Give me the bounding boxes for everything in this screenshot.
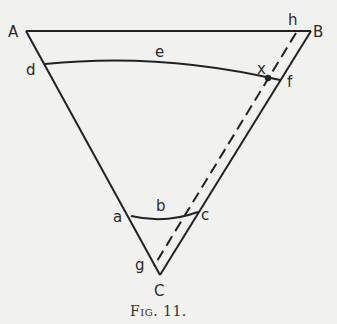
label-C: C	[154, 282, 164, 300]
label-c: c	[201, 206, 209, 224]
label-x: x	[257, 60, 266, 78]
label-g: g	[135, 256, 145, 274]
figure-caption: Fig. 11.	[130, 303, 187, 319]
label-f: f	[287, 73, 293, 91]
label-d: d	[26, 61, 36, 79]
dashed-line-hg	[154, 33, 296, 266]
label-A: A	[8, 23, 19, 41]
side-AC	[26, 31, 160, 275]
label-b: b	[156, 197, 166, 215]
label-a: a	[113, 208, 122, 226]
arc-def	[45, 60, 280, 80]
label-h: h	[288, 11, 298, 29]
side-BC	[160, 31, 311, 275]
figure-11-diagram: A B C h d e x f a b c g Fig. 11.	[0, 0, 337, 324]
label-e: e	[155, 43, 164, 61]
label-B: B	[313, 23, 323, 41]
